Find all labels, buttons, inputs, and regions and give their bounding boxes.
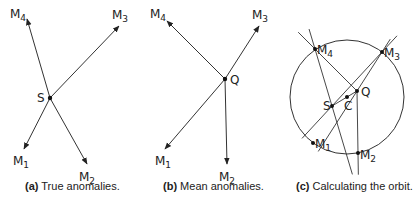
caption-tag-c: (c) xyxy=(296,180,309,192)
label-m4: M4 xyxy=(10,7,26,23)
caption-text-b: Mean anomalies. xyxy=(180,180,264,192)
arrow-m1 xyxy=(165,79,225,149)
label-m4: M4 xyxy=(150,7,166,23)
panel-true-anomalies: M1M2M3M4S xyxy=(10,7,128,186)
panel-mean-anomalies: M1M2M3M4Q xyxy=(150,7,268,186)
caption-text-c: Calculating the orbit. xyxy=(313,180,413,192)
orbit-diagram: M1M2M3M4S M1M2M3M4Q SQCM1M2M3M4 xyxy=(0,0,414,204)
caption-b: (b) Mean anomalies. xyxy=(163,180,264,192)
caption-c: (c) Calculating the orbit. xyxy=(296,180,413,192)
label-s: S xyxy=(37,91,45,105)
arrow-m2 xyxy=(50,98,87,164)
arrow-m4 xyxy=(27,19,50,98)
arrow-m2 xyxy=(225,79,227,164)
caption-a: (a) True anomalies. xyxy=(25,180,120,192)
label-c: C xyxy=(344,99,352,113)
line-q-m4 xyxy=(298,32,357,91)
label-q: Q xyxy=(230,73,239,87)
label-m3: M3 xyxy=(112,8,128,24)
label-m1: M1 xyxy=(13,154,29,170)
label-q: Q xyxy=(361,85,370,99)
label-m3: M3 xyxy=(384,46,400,62)
arrow-m3 xyxy=(225,26,259,79)
caption-text-a: True anomalies. xyxy=(41,180,119,192)
label-m3: M3 xyxy=(252,8,268,24)
caption-tag-b: (b) xyxy=(163,180,177,192)
label-m1: M1 xyxy=(155,154,171,170)
center-point xyxy=(48,96,52,100)
label-m2: M2 xyxy=(360,148,376,164)
label-m1: M1 xyxy=(315,137,331,153)
arrow-m3 xyxy=(50,26,119,98)
panel-calculating-orbit: SQCM1M2M3M4 xyxy=(290,29,404,175)
line-q-m2 xyxy=(357,91,358,175)
center-point xyxy=(223,77,227,81)
arrow-m4 xyxy=(167,21,225,79)
point-q xyxy=(355,89,359,93)
caption-tag-a: (a) xyxy=(25,180,38,192)
arrow-m1 xyxy=(24,98,50,149)
label-s: S xyxy=(323,99,331,113)
label-m4: M4 xyxy=(317,43,333,59)
